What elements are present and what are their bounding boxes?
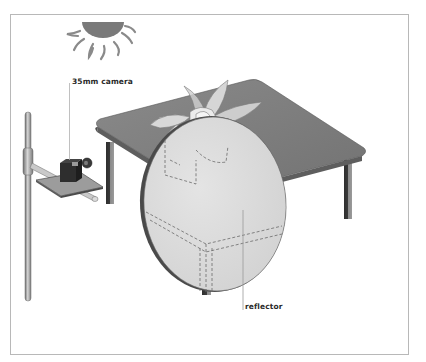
camera-stand [23,112,103,301]
sun-icon [67,22,135,59]
diagram-illustration [0,0,426,362]
label-reflector: reflector [245,302,283,311]
label-35mm-camera: 35mm camera [72,77,133,86]
